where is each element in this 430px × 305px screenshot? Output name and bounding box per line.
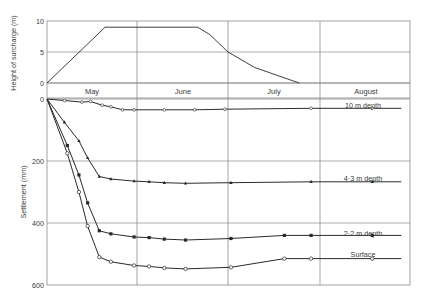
data-point: [309, 257, 312, 260]
data-point: [163, 108, 166, 111]
series-4-3-m-depth: [47, 99, 401, 185]
series-2-2-m-depth: [47, 99, 401, 242]
curve-label-2-2m-depth: 2·2 m depth: [344, 229, 382, 238]
surcharge-curve: [47, 27, 299, 83]
data-point: [133, 108, 136, 111]
surcharge-tick-label: 5: [40, 48, 44, 57]
data-point: [309, 234, 312, 237]
series-line: [47, 99, 401, 240]
settlement-y-axis-label: Settlement (mm): [19, 165, 28, 218]
month-label-june: June: [175, 87, 191, 96]
data-point: [148, 236, 151, 239]
settlement-y-ticks: 0200400600: [32, 95, 44, 290]
settlement-panel: 0200400600 Settlement (mm) 10 m depth 4·…: [19, 95, 410, 290]
curve-label-10m-depth: 10 m depth: [345, 101, 381, 110]
data-point: [310, 107, 313, 110]
data-point: [86, 224, 89, 227]
data-point: [80, 101, 83, 104]
surcharge-tick-label: 10: [36, 17, 44, 26]
surcharge-grid: [47, 21, 410, 285]
month-label-may: May: [85, 87, 99, 96]
data-point: [109, 260, 112, 263]
curve-label-4-3m-depth: 4·3 m depth: [344, 174, 382, 183]
surcharge-y-axis-label: Height of surcharge (m): [9, 15, 18, 91]
data-point: [77, 173, 80, 176]
data-point: [98, 229, 101, 232]
settlement-chart: 0510 Height of surcharge (m) May June Ju…: [0, 0, 430, 305]
data-point: [66, 152, 69, 155]
data-point: [86, 201, 89, 204]
data-point: [229, 266, 232, 269]
series-line: [47, 99, 401, 269]
month-band: May June July August: [85, 87, 379, 96]
data-point: [229, 237, 232, 240]
data-point: [98, 255, 101, 258]
data-point: [184, 238, 187, 241]
curve-label-surface: Surface: [351, 250, 376, 259]
data-point: [132, 264, 135, 267]
data-point: [77, 190, 80, 193]
data-point: [109, 232, 112, 235]
data-point: [132, 235, 135, 238]
data-point: [121, 108, 124, 111]
data-point: [89, 100, 92, 103]
data-point: [184, 267, 187, 270]
data-point: [63, 99, 66, 102]
surcharge-tick-label: 0: [40, 79, 44, 88]
data-point: [193, 108, 196, 111]
series-surface: [47, 99, 401, 271]
month-label-july: July: [267, 87, 281, 96]
settlement-series: [47, 99, 401, 271]
data-point: [147, 265, 150, 268]
month-label-august: August: [354, 87, 378, 96]
data-point: [101, 104, 104, 107]
series-line: [47, 99, 401, 183]
settlement-tick-label: 600: [32, 281, 44, 290]
surcharge-y-ticks: 0510: [36, 17, 44, 88]
data-point: [109, 105, 112, 108]
data-point: [66, 144, 69, 147]
settlement-tick-label: 400: [32, 219, 44, 228]
data-point: [163, 266, 166, 269]
data-point: [283, 257, 286, 260]
data-point: [283, 234, 286, 237]
data-point: [163, 238, 166, 241]
data-point: [224, 108, 227, 111]
settlement-tick-label: 0: [40, 95, 44, 104]
settlement-tick-label: 200: [32, 157, 44, 166]
